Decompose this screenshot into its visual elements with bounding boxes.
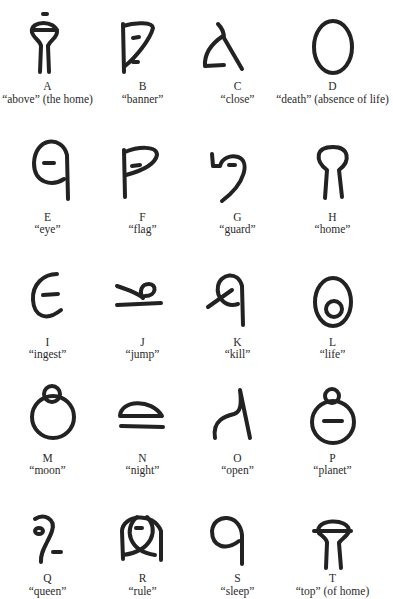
glyph-life-icon <box>285 252 380 332</box>
glyph-open-icon <box>190 370 285 450</box>
glyph-top-icon <box>285 495 380 575</box>
glyph-jump-icon <box>95 252 190 332</box>
glyph-above-icon <box>0 0 95 80</box>
glyph-meaning: “top” (of home) <box>255 585 393 597</box>
glyph-letter: P <box>265 452 393 464</box>
glyph-letter: T <box>265 572 393 584</box>
glyph-meaning: “planet” <box>255 464 393 476</box>
glyph-meaning: “life” <box>255 348 393 360</box>
glyph-meaning: “death” (absence of life) <box>255 93 393 105</box>
glyph-rule-icon <box>95 495 190 575</box>
glyph-night-icon <box>95 370 190 450</box>
glyph-sleep-icon <box>190 495 285 575</box>
glyph-queen-icon <box>0 495 95 575</box>
glyph-meaning: “home” <box>255 223 393 235</box>
glyph-letter: H <box>265 211 393 223</box>
glyph-letter: L <box>265 336 393 348</box>
glyph-home-icon <box>285 125 380 205</box>
glyph-letter: D <box>265 80 393 92</box>
glyph-death-icon <box>285 0 380 80</box>
glyph-guard-icon <box>190 125 285 205</box>
glyph-moon-icon <box>0 370 95 450</box>
glyph-close-icon <box>190 0 285 80</box>
glyph-eye-icon <box>0 125 95 205</box>
glyph-planet-icon <box>285 370 380 450</box>
glyph-banner-icon <box>95 0 190 80</box>
glyph-flag-icon <box>95 125 190 205</box>
glyph-kill-icon <box>190 252 285 332</box>
glyph-ingest-icon <box>0 252 95 332</box>
